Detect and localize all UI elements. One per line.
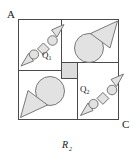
corner-label-a: A — [7, 8, 15, 20]
quadrant-label-q1-subscript: 1 — [49, 55, 52, 61]
chain-circle — [29, 50, 38, 59]
figure-caption: R — [61, 139, 68, 150]
r2-diagram: Q 1 Q — [0, 0, 140, 157]
quadrant-label-q2-subscript: 2 — [87, 89, 90, 95]
figure-caption-subscript: 2 — [69, 146, 72, 152]
chain-circle — [107, 85, 117, 95]
center-square — [62, 63, 78, 79]
corner-label-c: C — [122, 118, 129, 130]
chain-circle — [89, 99, 98, 108]
chain-circle — [48, 36, 58, 46]
figure-container: Q 1 Q — [0, 0, 140, 157]
